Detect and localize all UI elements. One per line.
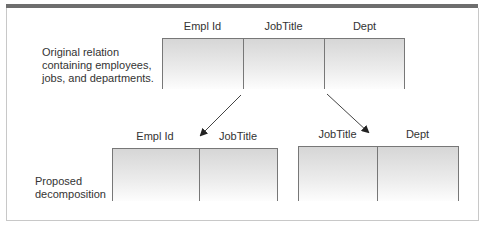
right-decomposed-table	[298, 146, 459, 201]
proposed-decomposition-label: Proposed decomposition	[35, 175, 106, 201]
column-header-empl-id: Empl Id	[112, 130, 198, 142]
column-header-job-title: JobTitle	[298, 128, 377, 140]
arrow-to-right-table	[327, 94, 368, 132]
label-line: decomposition	[35, 188, 106, 201]
column-header-job-title: JobTitle	[198, 130, 278, 142]
column-divider	[377, 147, 378, 201]
column-divider	[199, 149, 200, 201]
left-decomposed-table	[112, 148, 278, 201]
arrow-to-left-table	[201, 95, 241, 135]
column-header-dept: Dept	[377, 128, 458, 140]
label-line: Proposed	[35, 175, 106, 188]
